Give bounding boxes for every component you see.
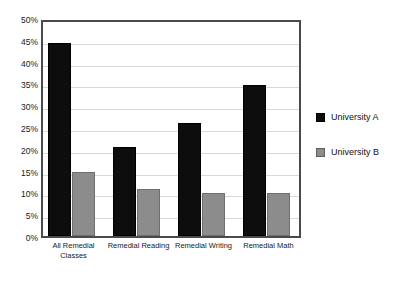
bar-group <box>43 22 301 236</box>
x-tick-label: Remedial Math <box>238 241 300 251</box>
y-tick-label: 5% <box>26 212 38 221</box>
chart-legend: University AUniversity B <box>316 112 408 182</box>
y-tick-label: 40% <box>21 59 38 68</box>
y-tick-label: 15% <box>21 168 38 177</box>
y-tick-label: 0% <box>26 234 38 243</box>
bar <box>243 85 266 236</box>
legend-entry: University A <box>316 112 408 122</box>
y-axis: 0%5%10%15%20%25%30%35%40%45%50% <box>0 0 40 281</box>
x-tick-label: Remedial Writing <box>173 241 235 251</box>
bars-layer <box>43 22 299 236</box>
y-tick-label: 25% <box>21 125 38 134</box>
y-tick-label: 50% <box>21 16 38 25</box>
legend-swatch-icon <box>316 113 325 122</box>
x-axis: All Remedial ClassesRemedial ReadingReme… <box>41 241 301 279</box>
legend-swatch-icon <box>316 148 325 157</box>
y-tick-label: 20% <box>21 146 38 155</box>
y-tick-label: 10% <box>21 190 38 199</box>
y-tick-label: 35% <box>21 81 38 90</box>
y-tick-label: 45% <box>21 37 38 46</box>
y-tick-label: 30% <box>21 103 38 112</box>
bar-chart-figure: 0%5%10%15%20%25%30%35%40%45%50% All Reme… <box>0 0 411 281</box>
x-tick-label: All Remedial Classes <box>43 241 105 260</box>
bar <box>267 193 290 236</box>
legend-entry: University B <box>316 147 408 157</box>
x-tick-label: Remedial Reading <box>108 241 170 251</box>
legend-label: University A <box>331 112 379 122</box>
legend-label: University B <box>331 147 379 157</box>
plot-area <box>41 20 301 238</box>
